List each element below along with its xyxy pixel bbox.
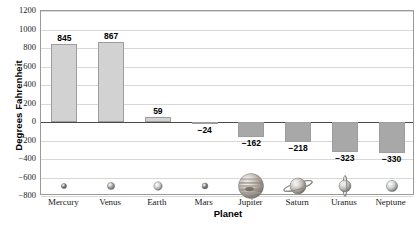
mercury-planet-icon bbox=[61, 182, 68, 189]
jupiter-planet-icon bbox=[238, 172, 265, 199]
temperature-bar-chart: Average Surface Temperature of the Plane… bbox=[0, 0, 416, 225]
bar-mars[interactable] bbox=[192, 122, 218, 124]
uranus-planet-icon bbox=[333, 174, 356, 197]
bar-jupiter[interactable] bbox=[238, 122, 264, 137]
bar-value-label-jupiter: −162 bbox=[242, 138, 261, 148]
earth-planet-icon bbox=[153, 181, 163, 191]
bar-value-label-earth: 59 bbox=[153, 106, 162, 116]
x-axis-tick-label-earth: Earth bbox=[147, 197, 167, 207]
y-axis-tick-label: 0 bbox=[2, 116, 36, 126]
y-axis-tick-label: 400 bbox=[2, 79, 36, 89]
bar-value-label-mars: −24 bbox=[197, 125, 211, 135]
mars-planet-icon bbox=[201, 182, 209, 190]
y-axis-tick-label: −400 bbox=[2, 153, 36, 163]
bar-earth[interactable] bbox=[145, 117, 171, 122]
gridline bbox=[41, 196, 413, 197]
y-axis-tick-label: 800 bbox=[2, 42, 36, 52]
y-axis-tick-label: 1000 bbox=[2, 24, 36, 34]
bar-saturn[interactable] bbox=[285, 122, 311, 142]
bar-value-label-mercury: 845 bbox=[57, 33, 71, 43]
y-axis-tick-label: −200 bbox=[2, 135, 36, 145]
x-axis-title: Planet bbox=[40, 208, 416, 219]
gridline bbox=[41, 11, 413, 12]
x-axis-tick-label-mercury: Mercury bbox=[48, 197, 79, 207]
bar-uranus[interactable] bbox=[332, 122, 358, 152]
gridline bbox=[41, 30, 413, 31]
x-axis-tick-label-saturn: Saturn bbox=[285, 197, 309, 207]
bar-venus[interactable] bbox=[98, 42, 124, 122]
gridline bbox=[41, 48, 413, 49]
gridline bbox=[41, 85, 413, 86]
x-axis-tick-label-neptune: Neptune bbox=[375, 197, 406, 207]
y-axis-tick-label: 1200 bbox=[2, 5, 36, 15]
gridline bbox=[41, 104, 413, 105]
x-axis-tick-label-mars: Mars bbox=[194, 197, 213, 207]
x-axis-tick-label-venus: Venus bbox=[99, 197, 121, 207]
bar-neptune[interactable] bbox=[379, 122, 405, 153]
venus-planet-icon bbox=[107, 181, 116, 190]
x-axis-tick-label-jupiter: Jupiter bbox=[238, 197, 263, 207]
bar-value-label-venus: 867 bbox=[104, 31, 118, 41]
bar-value-label-saturn: −218 bbox=[289, 143, 308, 153]
bar-value-label-uranus: −323 bbox=[335, 153, 354, 163]
x-axis-tick-label-uranus: Uranus bbox=[331, 197, 357, 207]
bar-mercury[interactable] bbox=[51, 44, 77, 122]
gridline bbox=[41, 178, 413, 179]
gridline bbox=[41, 67, 413, 68]
y-axis-tick-label: −800 bbox=[2, 190, 36, 200]
y-axis-tick-label: 200 bbox=[2, 98, 36, 108]
y-axis-tick-label: −600 bbox=[2, 172, 36, 182]
gridline bbox=[41, 159, 413, 160]
bar-value-label-neptune: −330 bbox=[382, 154, 401, 164]
plot-area: 84586759−24−162−218−323−330 bbox=[40, 10, 414, 195]
y-axis-tick-label: 600 bbox=[2, 61, 36, 71]
neptune-planet-icon bbox=[385, 179, 398, 192]
